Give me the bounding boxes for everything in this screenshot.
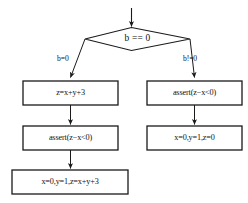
flowchart-canvas: b == 0 b=0 b!=0 z=x+y+3 assert(z−x<0) x=…	[0, 0, 248, 203]
right-box-2-shape	[147, 126, 242, 150]
left-box-1-shape	[23, 81, 118, 105]
edge-label-false: b!=0	[183, 55, 197, 63]
decision-diamond	[85, 28, 190, 51]
right-box-1-shape	[147, 81, 242, 105]
edge-label-true: b=0	[57, 55, 69, 63]
left-box-2-shape	[23, 126, 118, 150]
left-box-3-shape	[12, 170, 128, 194]
flowchart-graphics	[0, 0, 248, 203]
edge-true-line	[71, 39, 86, 78]
